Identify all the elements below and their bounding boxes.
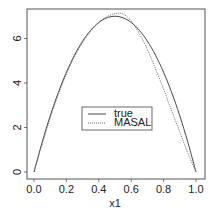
x-tick-label: 0.8: [156, 183, 171, 195]
x-tick-label: 0.0: [26, 183, 41, 195]
y-tick-label: 6: [11, 35, 23, 41]
y-axis: 0246: [11, 35, 27, 175]
y-tick-label: 4: [11, 80, 23, 86]
plot-frame: [27, 9, 205, 179]
y-tick-label: 2: [11, 124, 23, 130]
legend: true MASAL: [82, 107, 152, 130]
legend-label-masal: MASAL: [114, 116, 151, 128]
line-chart: 0.00.20.40.60.81.0 0246 x1 true MASAL: [0, 0, 214, 215]
x-axis-title: x1: [109, 197, 121, 209]
series-layer: [34, 13, 196, 172]
x-tick-label: 0.2: [59, 183, 74, 195]
x-tick-label: 0.4: [91, 183, 106, 195]
x-tick-label: 1.0: [188, 183, 203, 195]
x-tick-label: 0.6: [124, 183, 139, 195]
y-tick-label: 0: [11, 169, 23, 175]
series-line-true: [34, 16, 196, 172]
x-axis: 0.00.20.40.60.81.0: [26, 179, 203, 195]
